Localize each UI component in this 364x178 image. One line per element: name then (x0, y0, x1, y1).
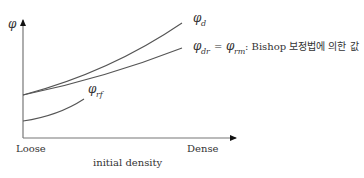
y-axis-label: φ (8, 17, 17, 31)
label-phi-dr-subscript: dr (201, 47, 211, 56)
x-axis-title: initial density (93, 157, 163, 168)
curve-phi-rf (23, 99, 84, 121)
label-phi-rf-subscript: rf (96, 90, 105, 99)
curve-phi-d (23, 23, 182, 95)
x-axis-end-label: Dense (187, 143, 219, 154)
label-phi-dr: φ dr = φ rm : Bishop 보정법에 의한 값 (193, 39, 359, 56)
bishop-note: : Bishop 보정법에 의한 값 (245, 41, 359, 52)
diagram-canvas: φ φ d φ dr = φ rm : Bishop 보정법에 의한 값 φ r… (0, 0, 364, 178)
label-phi-d: φ d (193, 11, 206, 28)
label-phi-d-subscript: d (201, 19, 206, 28)
equals-sign: = (214, 41, 222, 52)
x-axis-start-label: Loose (16, 143, 46, 154)
label-phi-rf: φ rf (88, 82, 105, 99)
